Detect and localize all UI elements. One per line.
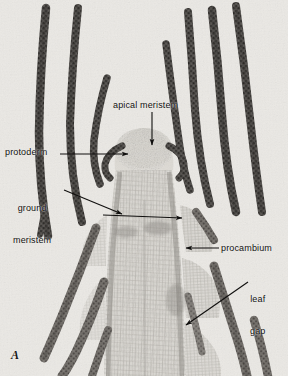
label-ground-meristem-line1: ground <box>13 203 51 214</box>
label-ground-meristem-line2: meristem <box>13 235 51 246</box>
label-apical-meristem: apical meristem <box>113 100 178 111</box>
label-leaf-gap-line1: leaf <box>250 294 265 305</box>
figure-root: apical meristem protoderm ground meriste… <box>0 0 288 376</box>
label-leaf-gap: leaf gap <box>250 273 265 357</box>
label-protoderm: protoderm <box>5 147 47 158</box>
label-ground-meristem: ground meristem <box>13 182 51 266</box>
label-procambium: procambium <box>221 243 272 254</box>
label-leaf-gap-line2: gap <box>250 326 265 337</box>
plate-letter: A <box>11 348 19 363</box>
